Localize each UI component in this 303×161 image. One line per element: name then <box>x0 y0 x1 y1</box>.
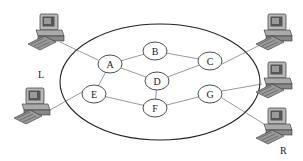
computer-icon-left-top <box>28 14 64 50</box>
node-A: A <box>98 55 122 73</box>
node-B: B <box>143 42 167 60</box>
side-label-left: L <box>38 69 44 80</box>
node-label-B: B <box>152 46 159 57</box>
computer-icon-right-top <box>256 14 292 50</box>
computer-icon-right-middle <box>256 62 292 98</box>
node-label-D: D <box>153 76 160 87</box>
node-D: D <box>145 72 169 90</box>
node-label-A: A <box>106 59 114 70</box>
side-label-right: R <box>280 145 287 156</box>
node-label-G: G <box>206 89 213 100</box>
node-E: E <box>82 85 106 103</box>
node-F: F <box>143 99 167 117</box>
node-G: G <box>198 85 222 103</box>
computer-icon-right-bottom <box>256 108 292 144</box>
node-C: C <box>198 52 222 70</box>
node-label-E: E <box>91 89 97 100</box>
computer-icon-left-bottom <box>14 88 50 124</box>
node-label-F: F <box>152 103 158 114</box>
network-diagram: A B C D E F G L R <box>0 0 303 161</box>
node-label-C: C <box>207 56 214 67</box>
